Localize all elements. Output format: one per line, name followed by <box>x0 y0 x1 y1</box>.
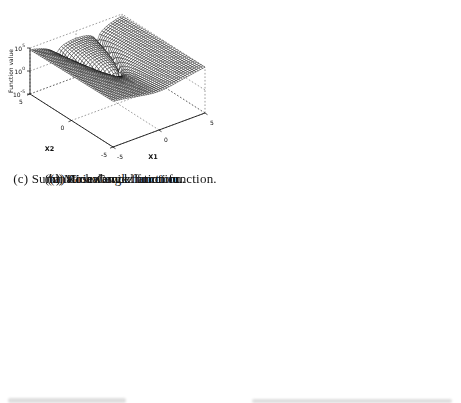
surface-plot-rosenbrock <box>0 0 230 170</box>
subplot-caption-d: (d) Rosenbrock function. <box>47 171 182 187</box>
cropped-text-remnant <box>252 399 452 403</box>
subplot-d-rosenbrock: (d) Rosenbrock function. <box>0 0 230 187</box>
cropped-text-remnant <box>8 398 126 403</box>
